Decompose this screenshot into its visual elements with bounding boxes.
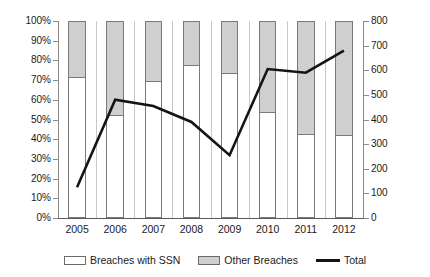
left-axis-tick-label: 0% xyxy=(37,213,51,223)
right-axis-tick-label: 100 xyxy=(371,188,388,198)
right-axis-tick xyxy=(364,144,369,145)
right-axis-tick-label: 800 xyxy=(371,16,388,26)
left-axis-tick-label: 70% xyxy=(31,75,51,85)
legend-label-other-breaches: Other Breaches xyxy=(224,254,298,266)
left-axis-tick-label: 20% xyxy=(31,174,51,184)
x-axis-label-2009: 2009 xyxy=(211,223,249,235)
chart-legend: Breaches with SSN Other Breaches Total xyxy=(0,250,430,270)
legend-swatch-gray-icon xyxy=(198,256,220,265)
legend-label-breaches-with-ssn: Breaches with SSN xyxy=(90,254,180,266)
left-axis-tick-label: 30% xyxy=(31,154,51,164)
right-axis-tick xyxy=(364,21,369,22)
left-axis-tick-label: 100% xyxy=(25,16,51,26)
legend-label-total: Total xyxy=(344,254,366,266)
right-axis-tick-label: 400 xyxy=(371,115,388,125)
legend-swatch-white-icon xyxy=(64,256,86,265)
legend-item-other-breaches: Other Breaches xyxy=(198,254,298,266)
legend-line-black-icon xyxy=(316,259,340,262)
left-axis-tick-label: 50% xyxy=(31,115,51,125)
stacked-bar-line-chart: 0%10%20%30%40%50%60%70%80%90%100% 010020… xyxy=(0,0,430,277)
left-axis-tick-label: 80% xyxy=(31,55,51,65)
right-axis-tick xyxy=(364,95,369,96)
right-axis-tick xyxy=(364,193,369,194)
x-axis-label-2010: 2010 xyxy=(249,223,287,235)
left-axis-tick-label: 90% xyxy=(31,36,51,46)
right-axis-tick xyxy=(364,46,369,47)
left-axis-tick-label: 40% xyxy=(31,134,51,144)
left-axis-tick-label: 60% xyxy=(31,95,51,105)
right-axis-tick-label: 700 xyxy=(371,41,388,51)
plot-area: 0%10%20%30%40%50%60%70%80%90%100% 010020… xyxy=(58,21,363,218)
right-axis-tick-label: 600 xyxy=(371,65,388,75)
right-axis-tick xyxy=(364,218,369,219)
left-axis-tick-label: 10% xyxy=(31,193,51,203)
x-axis-label-2005: 2005 xyxy=(58,223,96,235)
legend-item-breaches-with-ssn: Breaches with SSN xyxy=(64,254,180,266)
right-axis-tick xyxy=(364,120,369,121)
right-axis-tick xyxy=(364,70,369,71)
right-axis-tick-label: 0 xyxy=(371,213,377,223)
x-axis-label-2011: 2011 xyxy=(287,223,325,235)
total-line-path xyxy=(77,51,344,188)
right-axis-tick xyxy=(364,169,369,170)
total-line-series xyxy=(58,21,363,218)
x-axis-label-2007: 2007 xyxy=(134,223,172,235)
x-axis-label-2008: 2008 xyxy=(172,223,210,235)
x-axis-label-2012: 2012 xyxy=(325,223,363,235)
right-axis-tick-label: 300 xyxy=(371,139,388,149)
x-axis-category-labels: 20052006200720082009201020112012 xyxy=(58,223,363,239)
bottom-axis-line xyxy=(58,218,364,219)
right-axis-tick-label: 500 xyxy=(371,90,388,100)
x-axis-label-2006: 2006 xyxy=(96,223,134,235)
legend-item-total: Total xyxy=(316,254,366,266)
left-axis-tick xyxy=(53,218,58,219)
right-axis-tick-label: 200 xyxy=(371,164,388,174)
